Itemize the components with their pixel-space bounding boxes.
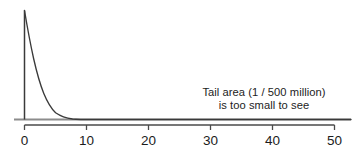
x-tick-label-20: 20 [141,134,156,148]
exponential-tail-chart: Tail area (1 / 500 million) is too small… [0,0,355,168]
tail-area-annotation-line-1: Tail area (1 / 500 million) [180,86,348,99]
x-tick-label-0: 0 [21,134,29,148]
chart-plot-area [0,0,355,168]
x-axis-ticks [25,125,335,130]
x-tick-label-40: 40 [265,134,280,148]
tail-area-annotation: Tail area (1 / 500 million) is too small… [180,86,348,111]
x-tick-label-50: 50 [327,134,342,148]
tail-area-annotation-line-2: is too small to see [180,99,348,112]
x-tick-label-10: 10 [79,134,94,148]
x-tick-label-30: 30 [203,134,218,148]
